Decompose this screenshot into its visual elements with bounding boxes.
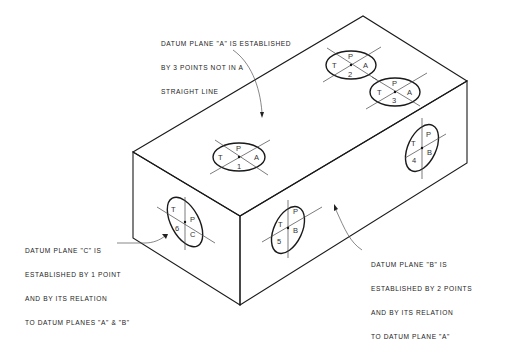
svg-text:P: P [392, 79, 397, 88]
svg-text:A: A [407, 88, 412, 97]
left-face [133, 152, 240, 305]
svg-text:T: T [218, 153, 223, 162]
svg-text:T: T [411, 139, 416, 148]
datum-target-5: T P B 5 [262, 200, 322, 259]
svg-text:3: 3 [392, 96, 396, 105]
svg-text:P: P [426, 130, 431, 139]
svg-text:B: B [427, 148, 432, 157]
svg-text:C: C [190, 230, 196, 239]
svg-text:T: T [278, 220, 283, 229]
svg-text:T: T [171, 205, 176, 214]
note-datum-b: DATUM PLANE "B" IS ESTABLISHED BY 2 POIN… [371, 245, 472, 343]
svg-text:5: 5 [277, 237, 281, 246]
svg-text:B: B [293, 226, 298, 235]
svg-text:1: 1 [237, 162, 241, 171]
datum-target-2: T P A 2 [323, 47, 381, 82]
svg-text:P: P [190, 215, 195, 224]
svg-text:6: 6 [175, 224, 179, 233]
svg-text:T: T [377, 88, 382, 97]
datum-target-6: T P 6 C [157, 192, 215, 253]
svg-text:2: 2 [348, 70, 352, 79]
datum-target-3: T P A 3 [366, 73, 427, 109]
svg-text:4: 4 [412, 156, 416, 165]
note-datum-a: DATUM PLANE "A" IS ESTABLISHED BY 3 POIN… [161, 24, 291, 104]
svg-text:P: P [236, 144, 241, 153]
note-datum-c: DATUM PLANE "C" IS ESTABLISHED BY 1 POIN… [25, 231, 130, 335]
datum-target-1: T P A 1 [210, 140, 270, 175]
datum-target-4: T P B 4 [399, 118, 446, 179]
svg-text:T: T [332, 61, 337, 70]
svg-text:A: A [363, 61, 368, 70]
svg-text:A: A [254, 153, 259, 162]
svg-text:P: P [293, 207, 298, 216]
svg-text:P: P [348, 52, 353, 61]
